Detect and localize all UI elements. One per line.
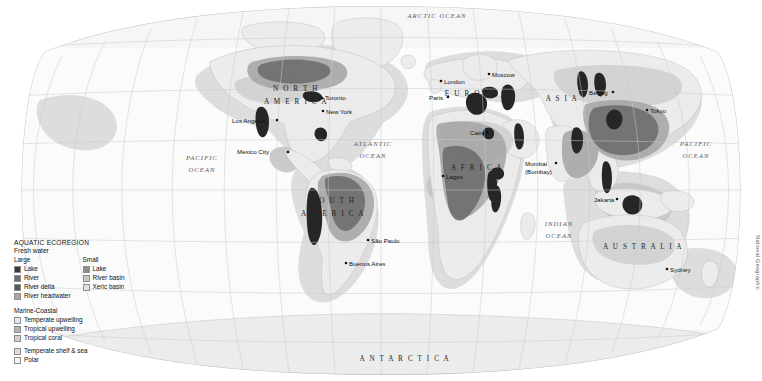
legend-large-items: LakeRiverRiver deltaRiver headwater [14, 265, 71, 301]
land-iceland [401, 55, 415, 69]
ocean-label-atlantic-ocean: OCEAN [359, 152, 386, 159]
ocean-label-pacific-ocean: PACIFIC [185, 154, 218, 161]
city-label-buenos-aires: Buenos Aires [349, 260, 385, 267]
legend-large-label: River headwater [24, 293, 71, 300]
city-label-jakarta: Jakarta [594, 196, 615, 203]
city-label-los-angeles: Los Angeles [232, 117, 266, 124]
ocean-label-pacific-ocean-2: PACIFIC [679, 140, 712, 147]
legend-small-label: Xeric basin [93, 284, 125, 291]
legend-marine-items-2: Temperate shelf & seaPolar [14, 347, 164, 365]
city-dot-mumbai-bombay- [555, 162, 558, 165]
continent-label-asia: A S I A [546, 95, 579, 103]
city-dot-sao-paulo [367, 239, 370, 242]
legend-small-label: River basin [93, 275, 125, 282]
city-dot-tokyo [646, 109, 649, 112]
legend-large-label: River delta [24, 284, 55, 291]
legend-large-row: River delta [14, 283, 71, 292]
legend-marine-row: Temperate upwelling [14, 316, 164, 325]
continent-label-antarctica: A N T A R C T I C A [360, 355, 451, 363]
city-dot-london [440, 80, 443, 83]
continent-label-south-america: A M E R I C A [301, 210, 365, 218]
ocean-label-indian-ocean: INDIAN [544, 220, 574, 227]
legend-small-swatch [83, 266, 90, 273]
city-label-paris: Paris [429, 94, 443, 101]
continent-label-africa: A F R I C A [451, 164, 503, 172]
legend-small-row: River basin [83, 274, 125, 283]
continent-label-australia: A U S T R A L I A [603, 243, 683, 251]
city-label-beijing: Beijing [589, 89, 608, 96]
city-dot-lagos [442, 175, 445, 178]
legend-marine-heading: Marine-Coastal [14, 308, 164, 315]
ocean-label-indian-ocean: OCEAN [545, 232, 572, 239]
legend-marine-swatch [14, 326, 21, 333]
publisher-credit: National Geographic [755, 235, 761, 290]
legend-small-swatch [83, 275, 90, 282]
city-dot-beijing [612, 91, 615, 94]
city-dot-jakarta [616, 198, 619, 201]
city-label-mumbai-bombay-: Mumbai [525, 160, 547, 167]
legend-small-row: Xeric basin [83, 283, 125, 292]
legend-small-heading: Small [83, 257, 125, 264]
city-dot-los-angeles [276, 119, 279, 122]
legend-marine-swatch [14, 348, 21, 355]
legend-marine-items: Temperate upwellingTropical upwellingTro… [14, 316, 164, 343]
city-label-london: London [444, 78, 465, 85]
city-label-mumbai-line2: (Bombay) [525, 168, 552, 175]
legend-title: AQUATIC ECOREGION [14, 240, 164, 247]
city-dot-cairo [486, 131, 489, 134]
legend-column-large: Large LakeRiverRiver deltaRiver headwate… [14, 257, 71, 301]
legend-small-row: Lake [83, 265, 125, 274]
ocean-label-pacific-ocean-2: OCEAN [682, 152, 709, 159]
city-label-toronto: Toronto [325, 94, 346, 101]
legend-marine-swatch [14, 317, 21, 324]
legend-marine-row: Polar [14, 356, 164, 365]
legend-marine-row: Tropical coral [14, 334, 164, 343]
legend-marine-row: Temperate shelf & sea [14, 347, 164, 356]
legend-marine-label: Polar [24, 357, 39, 364]
legend-small-label: Lake [93, 266, 107, 273]
city-label-tokyo: Tokyo [650, 107, 667, 114]
continent-label-north-america: N O R T H [273, 85, 319, 93]
legend-large-row: River [14, 274, 71, 283]
legend-marine-group: Marine-Coastal Temperate upwellingTropic… [14, 308, 164, 365]
legend-column-small: Small LakeRiver basinXeric basin [83, 257, 125, 301]
city-label-sao-paulo: São Paulo [371, 237, 400, 244]
continent-label-europe: E U R O P E [445, 90, 499, 98]
legend-large-row: River headwater [14, 292, 71, 301]
city-label-mexico-city: Mexico City [237, 148, 270, 155]
legend-subtitle: Fresh water [14, 248, 164, 255]
city-dot-moscow [488, 73, 491, 76]
city-dot-paris [447, 96, 450, 99]
city-label-cairo: Cairo [470, 129, 485, 136]
city-dot-new-york [322, 110, 325, 113]
continent-label-south-america: S O U T H [310, 197, 355, 205]
legend-marine-label: Temperate upwelling [24, 317, 83, 324]
city-dot-buenos-aires [345, 262, 348, 265]
legend-small-items: LakeRiver basinXeric basin [83, 265, 125, 292]
legend-marine-label: Tropical coral [24, 335, 62, 342]
city-dot-toronto [321, 97, 324, 100]
legend-marine-label: Tropical upwelling [24, 326, 75, 333]
legend-large-swatch [14, 293, 21, 300]
legend-marine-swatch [14, 335, 21, 342]
city-label-moscow: Moscow [492, 71, 515, 78]
map-legend: AQUATIC ECOREGION Fresh water Large Lake… [14, 240, 164, 365]
continent-label-north-america: A M E R I C A [264, 98, 328, 106]
city-dot-sydney [666, 268, 669, 271]
city-label-sydney: Sydney [670, 266, 692, 273]
city-label-lagos: Lagos [446, 173, 463, 180]
legend-large-label: Lake [24, 266, 38, 273]
legend-small-swatch [83, 284, 90, 291]
map-screenshot: N O R T HA M E R I C AS O U T HA M E R I… [0, 0, 762, 381]
city-dot-mexico-city [287, 151, 290, 154]
legend-large-swatch [14, 275, 21, 282]
city-label-new-york: New York [326, 108, 353, 115]
legend-large-swatch [14, 266, 21, 273]
legend-marine-row: Tropical upwelling [14, 325, 164, 334]
legend-large-label: River [24, 275, 39, 282]
legend-large-heading: Large [14, 257, 71, 264]
legend-marine-label: Temperate shelf & sea [24, 348, 88, 355]
ocean-label-pacific-ocean: OCEAN [188, 166, 215, 173]
legend-large-swatch [14, 284, 21, 291]
legend-marine-swatch [14, 357, 21, 364]
